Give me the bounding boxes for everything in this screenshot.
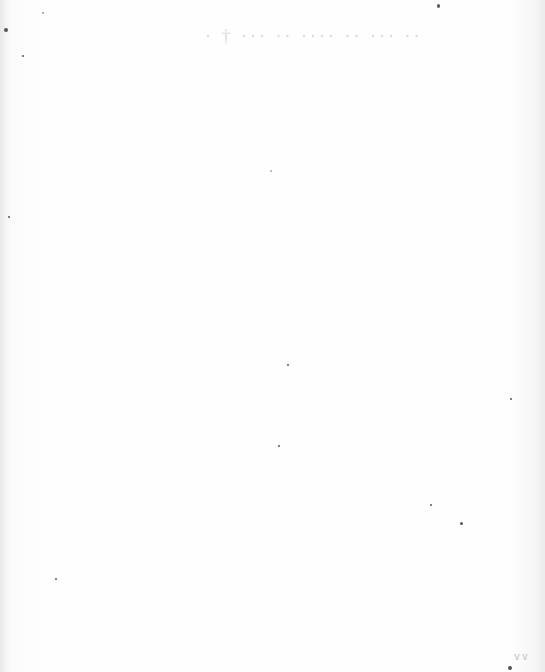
speck	[437, 4, 440, 8]
speck	[510, 398, 512, 400]
speck	[287, 364, 289, 366]
speck	[278, 445, 280, 447]
speck	[460, 522, 463, 525]
bleed-through-text: · † ··· ·· ···· ·· ··· ··	[205, 26, 435, 50]
speck	[8, 216, 10, 218]
speck	[270, 170, 272, 172]
speck	[508, 666, 512, 670]
speck	[430, 504, 432, 506]
speck	[4, 28, 8, 32]
speck	[22, 55, 24, 57]
speck	[55, 578, 57, 580]
corner-mark: ∨∨	[513, 650, 539, 668]
scanned-page: · † ··· ·· ···· ·· ··· ·· ∨∨	[0, 0, 545, 672]
speck	[42, 12, 44, 14]
